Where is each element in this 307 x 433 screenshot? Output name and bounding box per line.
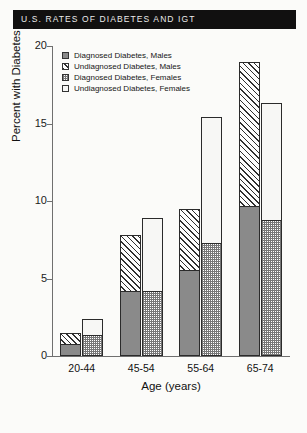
x-axis-tick-label: 45-54: [111, 362, 171, 374]
bar-segment-diagnosed: [240, 206, 259, 355]
chart-title: U.S. RATES OF DIABETES AND IGT: [21, 14, 196, 24]
chart-figure: U.S. RATES OF DIABETES AND IGT Percent w…: [0, 0, 307, 433]
y-axis-tick-label: 10: [35, 194, 47, 206]
legend-swatch: [62, 85, 69, 92]
bar-segment-diagnosed: [262, 220, 281, 355]
legend-swatch: [62, 74, 69, 81]
legend-label: Diagnosed Diabetes, Females: [74, 73, 181, 82]
y-axis-tick-label: 20: [35, 39, 47, 51]
y-axis-tick-label: 5: [41, 272, 47, 284]
x-axis-label: Age (years): [52, 380, 290, 392]
legend-label: Undiagnosed Diabetes, Males: [74, 62, 181, 71]
x-axis-tick-label: 20-44: [52, 362, 112, 374]
y-axis-tick: 0: [52, 356, 53, 357]
legend-swatch: [62, 63, 69, 70]
legend: Diagnosed Diabetes, MalesUndiagnosed Dia…: [62, 50, 232, 94]
legend-item: Diagnosed Diabetes, Females: [62, 72, 232, 83]
y-axis-tick-mark: [47, 356, 53, 357]
bar-males: [239, 62, 260, 357]
bar-segment-undiagnosed: [262, 104, 281, 222]
bar-segment-undiagnosed: [240, 63, 259, 209]
x-axis-tick-label: 55-64: [171, 362, 231, 374]
x-axis-tick-label: 65-74: [230, 362, 290, 374]
legend-item: Undiagnosed Diabetes, Males: [62, 61, 232, 72]
legend-item: Diagnosed Diabetes, Males: [62, 50, 232, 61]
title-banner: U.S. RATES OF DIABETES AND IGT: [13, 10, 296, 29]
bar-females: [261, 103, 282, 356]
x-axis-line: [52, 356, 290, 357]
legend-label: Undiagnosed Diabetes, Females: [74, 84, 190, 93]
legend-swatch: [62, 52, 69, 59]
legend-item: Undiagnosed Diabetes, Females: [62, 83, 232, 94]
y-axis-tick-label: 15: [35, 117, 47, 129]
y-axis-label-holder: Percent with Diabetes: [14, 46, 28, 357]
y-axis-label: Percent with Diabetes: [10, 30, 22, 142]
legend-label: Diagnosed Diabetes, Males: [74, 51, 172, 60]
y-axis-tick-label: 0: [41, 349, 47, 361]
